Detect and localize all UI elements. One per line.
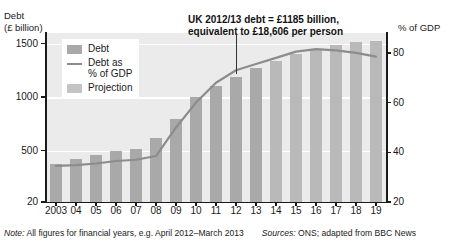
footnote-note-text: All figures for financial years, e.g. Ap…: [25, 228, 244, 238]
tick-label-left-500: 500: [4, 145, 38, 156]
tick-left-500: [41, 150, 45, 152]
footnote-sources: Sources: ONS; adapted from BBC News: [262, 228, 416, 238]
tick-label-x-2003: 2003: [42, 205, 70, 216]
tick-label-x-14: 14: [267, 205, 285, 216]
tick-right-40: [387, 152, 391, 154]
footnote-note-label: Note:: [4, 228, 25, 238]
legend-item-1: Debt as % of GDP: [67, 57, 132, 79]
y-axis-left-title: Debt (£ billion): [4, 10, 43, 33]
tick-label-x-16: 16: [307, 205, 325, 216]
tick-label-x-04: 04: [67, 205, 85, 216]
chart-figure: Debt (£ billion) % of GDP 1500100050020 …: [0, 0, 459, 247]
tick-label-x-17: 17: [327, 205, 345, 216]
legend: DebtDebt as % of GDPProjection: [62, 39, 139, 98]
tick-label-x-07: 07: [127, 205, 145, 216]
tick-label-x-10: 10: [187, 205, 205, 216]
tick-label-left-1000: 1000: [4, 91, 38, 102]
tick-label-x-05: 05: [87, 205, 105, 216]
tick-label-x-08: 08: [147, 205, 165, 216]
tick-label-x-15: 15: [287, 205, 305, 216]
axis-left: [45, 32, 47, 203]
footnote: Note: All figures for financial years, e…: [4, 228, 456, 238]
tick-label-left-20: 20: [4, 196, 38, 207]
footnote-sources-text: ONS; adapted from BBC News: [296, 228, 416, 238]
tick-label-right-40: 40: [393, 146, 423, 157]
footnote-sources-label: Sources:: [262, 228, 296, 238]
legend-label: Debt as % of GDP: [88, 57, 132, 79]
legend-label: Projection: [88, 82, 132, 93]
y-axis-right-title: % of GDP: [398, 22, 440, 34]
tick-label-x-11: 11: [207, 205, 225, 216]
tick-right-60: [387, 102, 391, 104]
legend-label: Debt: [88, 43, 109, 54]
tick-label-x-09: 09: [167, 205, 185, 216]
legend-swatch-icon: [67, 45, 82, 54]
tick-label-x-06: 06: [107, 205, 125, 216]
legend-swatch-icon: [67, 84, 82, 93]
legend-item-0: Debt: [67, 43, 132, 54]
tick-label-x-13: 13: [247, 205, 265, 216]
annotation-label: UK 2012/13 debt = £1185 billion, equival…: [188, 14, 343, 38]
tick-label-right-80: 80: [393, 47, 423, 58]
tick-right-20: [387, 201, 391, 203]
tick-label-right-20: 20: [393, 196, 423, 207]
axis-right: [386, 32, 388, 203]
tick-label-x-18: 18: [347, 205, 365, 216]
tick-label-left-1500: 1500: [4, 38, 38, 49]
divider: [0, 221, 459, 222]
tick-right-80: [387, 52, 391, 54]
legend-line-icon: [67, 59, 82, 68]
footnote-note: Note: All figures for financial years, e…: [4, 228, 244, 238]
tick-left-1500: [41, 43, 45, 45]
tick-label-x-19: 19: [367, 205, 385, 216]
annotation-leader-line: [236, 33, 237, 74]
legend-item-2: Projection: [67, 82, 132, 93]
tick-label-x-12: 12: [227, 205, 245, 216]
tick-left-20: [41, 201, 45, 203]
tick-label-right-60: 60: [393, 97, 423, 108]
tick-left-1000: [41, 96, 45, 98]
